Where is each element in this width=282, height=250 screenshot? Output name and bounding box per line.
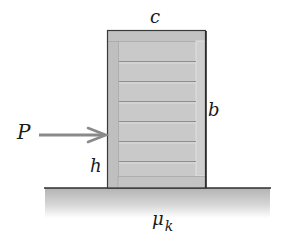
crate-body (107, 30, 206, 188)
crate-top-rail (108, 31, 206, 42)
force-arrow-p (39, 128, 106, 142)
diagram-canvas (0, 0, 282, 250)
label-friction-coefficient: μk (152, 210, 172, 228)
crate-right-post (196, 41, 206, 176)
friction-mu-symbol: μ (152, 208, 164, 229)
label-width-c: c (150, 8, 160, 26)
crate-left-post (108, 31, 119, 188)
label-force-p: P (17, 122, 30, 142)
crate (107, 30, 206, 188)
label-force-height-h: h (90, 157, 102, 175)
friction-subscript-k: k (165, 218, 173, 234)
label-height-b: b (208, 101, 220, 119)
crate-bottom-rail (118, 177, 206, 188)
